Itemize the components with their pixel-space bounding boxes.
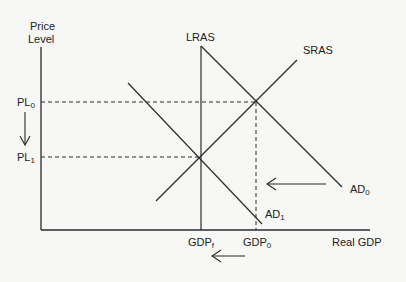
y-axis-label-line2: Level — [28, 33, 54, 45]
pl0-label: PL0 — [17, 96, 35, 112]
y-axis-label-line1: Price — [30, 20, 55, 32]
x-axis-label: Real GDP — [332, 236, 382, 248]
down-arrow-icon — [20, 112, 30, 145]
ad0-label: AD0 — [350, 183, 370, 199]
sras-label: SRAS — [303, 44, 333, 56]
left-arrow-icon — [212, 250, 245, 262]
gdp0-label: GDP0 — [243, 236, 271, 252]
gdpf-label: GDPf — [188, 236, 214, 252]
ad1-curve — [128, 83, 262, 224]
lras-label: LRAS — [186, 31, 215, 43]
pl1-label: PL1 — [17, 151, 35, 167]
ad0-curve — [201, 46, 342, 187]
left-arrow-icon — [267, 178, 326, 190]
ad1-label: AD1 — [265, 208, 285, 224]
sras-curve — [156, 60, 297, 201]
